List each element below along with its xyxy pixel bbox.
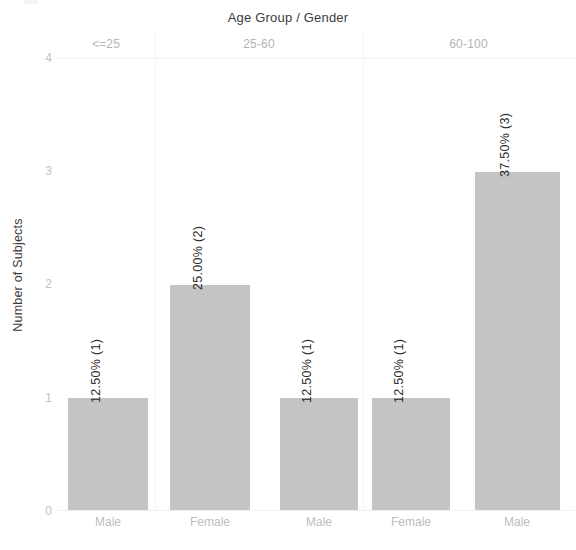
bar-60-100-female[interactable] (372, 398, 450, 511)
x-tick-25-60-male: Male (306, 515, 332, 529)
bar-60-100-male[interactable] (475, 172, 560, 511)
y-tick-4: 4 (28, 51, 52, 65)
panel-header-strip: <=25 25-60 60-100 (57, 30, 574, 58)
bar-lte25-male[interactable] (68, 398, 148, 511)
x-tick-lte25-male: Male (95, 515, 121, 529)
chart-title: Age Group / Gender (0, 10, 576, 25)
bar-25-60-female[interactable] (170, 285, 250, 511)
plot-top-rule (57, 58, 574, 59)
panel-header-age-lte25: <=25 (57, 30, 155, 58)
bar-label-60-100-female: 12.50% (1) (392, 339, 406, 403)
capture-artifact (24, 0, 38, 4)
y-tick-0: 0 (28, 504, 52, 518)
plot-area: 12.50% (1) 25.00% (2) 12.50% (1) 12.50% … (57, 58, 574, 511)
x-tick-25-60-female: Female (190, 515, 230, 529)
panel-divider-1 (155, 30, 156, 511)
bar-label-25-60-male: 12.50% (1) (300, 339, 314, 403)
bar-chart-figure: Age Group / Gender <=25 25-60 60-100 Num… (0, 0, 576, 550)
y-axis-ticks: 4 3 2 1 0 (28, 58, 52, 511)
panel-header-age-60-100: 60-100 (363, 30, 574, 58)
x-tick-60-100-female: Female (391, 515, 431, 529)
bar-label-lte25-male: 12.50% (1) (89, 339, 103, 403)
bar-25-60-male[interactable] (280, 398, 358, 511)
x-axis-ticks: Male Female Male Female Male (57, 515, 574, 539)
bar-label-25-60-female: 25.00% (2) (191, 226, 205, 290)
panel-divider-2 (363, 30, 364, 511)
bar-label-60-100-male: 37.50% (3) (498, 113, 512, 177)
y-axis-title-text: Number of Subjects (11, 218, 25, 331)
y-tick-1: 1 (28, 391, 52, 405)
panel-header-age-25-60: 25-60 (155, 30, 363, 58)
y-tick-2: 2 (28, 277, 52, 291)
y-tick-3: 3 (28, 164, 52, 178)
x-axis-baseline (57, 510, 574, 511)
x-tick-60-100-male: Male (504, 515, 530, 529)
